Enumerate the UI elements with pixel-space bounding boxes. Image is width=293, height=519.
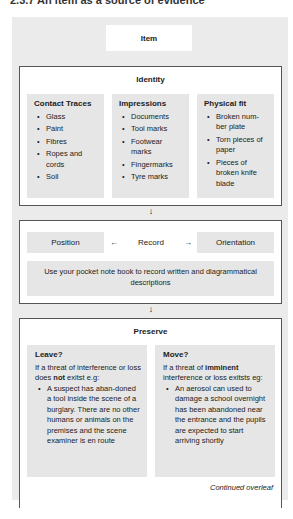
orientation-label: Orientation [197, 232, 274, 253]
contact-traces-column: Contact Traces Glass Paint Fibres Ropes … [27, 94, 104, 198]
record-box: Position ← Record → Orientation Use your… [19, 220, 282, 304]
identity-title: Identity [20, 75, 281, 84]
column-heading: Impressions [119, 99, 184, 110]
leave-heading: Leave? [35, 350, 141, 361]
column-heading: Contact Traces [34, 99, 99, 110]
column-heading: Physical fit [204, 99, 269, 110]
position-label: Position [27, 232, 104, 253]
record-label: Record [138, 238, 164, 247]
list-item: Torn pieces of paper [216, 135, 269, 156]
identity-box: Identity Contact Traces Glass Paint Fibr… [19, 66, 282, 206]
physical-fit-column: Physical fit Broken num-ber plate Torn p… [197, 94, 274, 198]
leave-column: Leave? If a threat of interference or lo… [27, 345, 147, 477]
arrow-left-icon: ← [110, 238, 118, 247]
item-box: Item [106, 25, 192, 51]
arrow-right-icon: → [184, 238, 192, 247]
impressions-column: Impressions Documents Tool marks Footwea… [112, 94, 189, 198]
move-intro: If a threat of imminent interference or … [163, 363, 269, 384]
list-item: Fingermarks [131, 160, 184, 171]
preserve-box: Preserve Leave? If a threat of interfere… [19, 318, 282, 508]
list-item: Ropes and cords [46, 149, 99, 170]
list-item: Broken num-ber plate [216, 112, 269, 133]
list-item: Glass [46, 112, 99, 123]
list-item: Soil [46, 172, 99, 183]
list-item: Tool marks [131, 124, 184, 135]
list-item: Pieces of broken knife blade [216, 158, 269, 190]
leave-intro: If a threat of interference or loss does… [35, 363, 141, 384]
section-title: 2.3.7 An item as a source of evidence [10, 0, 205, 6]
move-heading: Move? [163, 350, 269, 361]
list-item: Documents [131, 112, 184, 123]
list-item: Paint [46, 124, 99, 135]
list-item: Tyre marks [131, 172, 184, 183]
move-example: An aerosol can used to damage a school o… [175, 384, 269, 447]
record-center: ← Record → [110, 232, 192, 253]
list-item: Footwear marks [131, 137, 184, 158]
continued-overleaf: Continued overleaf [210, 483, 273, 492]
move-column: Move? If a threat of imminent interferen… [155, 345, 275, 477]
record-note: Use your pocket note book to record writ… [27, 261, 274, 296]
list-item: Fibres [46, 137, 99, 148]
leave-example: A suspect has aban-doned a tool inside t… [47, 384, 141, 447]
arrow-down-icon: ↓ [146, 206, 156, 216]
arrow-down-icon: ↓ [146, 304, 156, 314]
preserve-title: Preserve [20, 327, 281, 336]
